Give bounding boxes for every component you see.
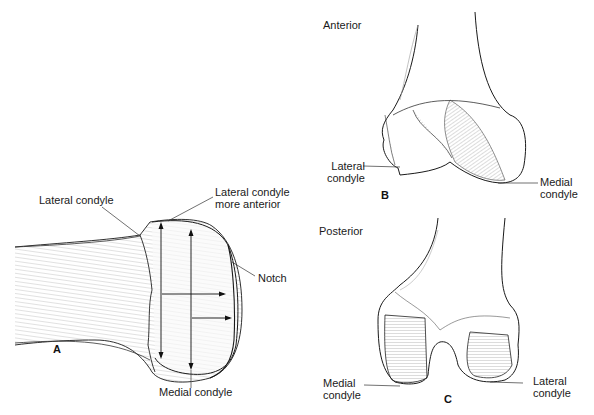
panel-letter-a: A <box>53 343 61 355</box>
panel-a-drawing <box>15 197 255 388</box>
label-a-notch: Notch <box>258 272 287 284</box>
panel-c-drawing <box>364 218 523 386</box>
femur-illustrations <box>0 0 594 415</box>
panel-b-drawing <box>363 12 538 183</box>
label-b-lateral-condyle: Lateral condyle <box>327 160 365 184</box>
label-c-medial-condyle: Medial condyle <box>323 377 361 401</box>
panel-letter-b: B <box>381 189 389 201</box>
view-title-posterior: Posterior <box>319 225 363 237</box>
label-a-lateral-condyle-more-anterior: Lateral condyle more anterior <box>215 186 290 210</box>
view-title-anterior: Anterior <box>323 19 362 31</box>
label-b-medial-condyle: Medial condyle <box>540 176 578 200</box>
label-c-lateral-condyle: Lateral condyle <box>533 375 571 399</box>
label-a-lateral-condyle: Lateral condyle <box>39 194 114 206</box>
panel-letter-c: C <box>444 393 452 405</box>
label-a-medial-condyle: Medial condyle <box>159 386 232 398</box>
